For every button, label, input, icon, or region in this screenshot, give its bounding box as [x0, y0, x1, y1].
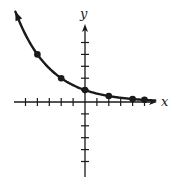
y-axis-label: y: [79, 6, 88, 21]
data-point: [106, 93, 113, 100]
exponential-graph: x y: [0, 0, 180, 184]
axes: [14, 12, 157, 177]
data-points: [34, 51, 148, 103]
data-point: [141, 97, 148, 104]
data-point: [34, 51, 41, 58]
x-axis-label: x: [161, 94, 169, 109]
data-point: [82, 87, 89, 94]
data-point: [129, 96, 136, 103]
data-point: [58, 75, 65, 82]
